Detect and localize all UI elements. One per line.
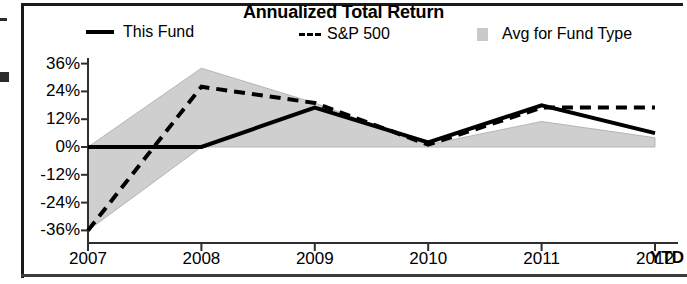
x-tick-label: 2009 xyxy=(296,250,334,267)
scanned-chart-figure: Annualized Total Return This Fund S&P 50… xyxy=(0,0,687,284)
x-axis-tick-labels: 200720082009201020112012 xyxy=(0,0,687,284)
x-axis-ytd-label: YTD xyxy=(650,248,684,268)
x-tick-label: 2007 xyxy=(69,250,107,267)
x-tick-label: 2008 xyxy=(182,250,220,267)
x-tick-label: 2010 xyxy=(409,250,447,267)
x-tick-label: 2011 xyxy=(523,250,560,267)
